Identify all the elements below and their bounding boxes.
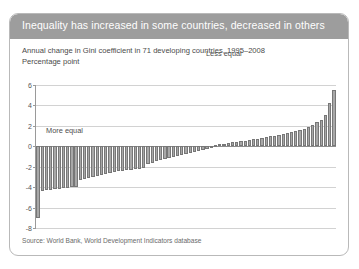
bar [117, 146, 120, 171]
bar [134, 146, 137, 169]
bar [193, 146, 196, 152]
plot-area: 6420-2-4-6-8 [35, 85, 336, 229]
bar [79, 146, 82, 180]
bar [41, 146, 44, 190]
chart-axis-unit-label: Percentage point [22, 56, 337, 67]
bar [45, 146, 48, 190]
bar [201, 146, 204, 150]
bar [125, 146, 128, 170]
bar [146, 146, 149, 163]
bar [104, 146, 107, 174]
bar [197, 146, 200, 151]
source-note: Source: World Bank, World Development In… [22, 237, 201, 244]
bar [189, 146, 192, 153]
card-header: Inequality has increased in some countri… [10, 14, 348, 39]
bar [324, 115, 327, 147]
bar [176, 146, 179, 156]
bar [70, 146, 73, 187]
bar [260, 138, 263, 146]
bar [277, 135, 280, 146]
bar [265, 137, 268, 146]
bar [62, 146, 65, 188]
bar [113, 146, 116, 172]
bar [244, 141, 247, 147]
bar [138, 146, 141, 168]
y-axis-tick-label: -8 [26, 225, 32, 232]
bar [66, 146, 69, 187]
bar [151, 146, 154, 162]
bar [129, 146, 132, 169]
bar [172, 146, 175, 157]
bar [36, 146, 39, 218]
bar [159, 146, 162, 160]
bar [96, 146, 99, 176]
bar [290, 132, 293, 146]
bar [108, 146, 111, 173]
y-axis-tick-label: 6 [28, 82, 32, 89]
bar [298, 130, 301, 146]
bar [83, 146, 86, 179]
bar [315, 122, 318, 146]
bar [286, 133, 289, 146]
bar [248, 140, 251, 146]
bar [294, 131, 297, 146]
bar [256, 139, 259, 147]
bar [239, 141, 242, 146]
bar [49, 146, 52, 189]
bar [311, 125, 314, 146]
bar [100, 146, 103, 175]
bar [252, 139, 255, 146]
y-axis-tick-label: 0 [28, 143, 32, 150]
y-axis-tick-label: 2 [28, 122, 32, 129]
bar [227, 143, 230, 146]
bar [184, 146, 187, 154]
y-axis-tick-label: -4 [26, 184, 32, 191]
bar [222, 144, 225, 147]
bar [303, 129, 306, 146]
y-axis-tick-label: 4 [28, 102, 32, 109]
chart-subtitle: Annual change in Gini coefficient in 71 … [22, 45, 337, 67]
bar [210, 146, 213, 148]
bar [231, 142, 234, 146]
bar [218, 144, 221, 146]
bar [180, 146, 183, 155]
bar [91, 146, 94, 177]
y-axis-tickmark [33, 228, 36, 229]
bar [155, 146, 158, 161]
annotation-less-equal: Less equal [206, 49, 242, 58]
bar [307, 127, 310, 146]
page-title: Inequality has increased in some countri… [22, 19, 325, 31]
bar [269, 136, 272, 146]
bar [320, 120, 323, 147]
bar [332, 90, 335, 147]
bar [328, 103, 331, 146]
bar [142, 146, 145, 168]
bar-series [36, 85, 336, 228]
annotation-more-equal: More equal [46, 126, 83, 135]
bar [282, 134, 285, 146]
bar [163, 146, 166, 159]
bar [214, 145, 217, 147]
gridline [36, 228, 336, 229]
y-axis-tick-label: -2 [26, 163, 32, 170]
chart-card: Inequality has increased in some countri… [9, 13, 349, 256]
bar [74, 146, 77, 186]
bar [235, 142, 238, 147]
bar [121, 146, 124, 171]
bar [53, 146, 56, 189]
bar [167, 146, 170, 158]
bar [205, 146, 208, 149]
y-axis-tick-label: -6 [26, 204, 32, 211]
bar [58, 146, 61, 188]
bar [273, 136, 276, 147]
bar [87, 146, 90, 178]
